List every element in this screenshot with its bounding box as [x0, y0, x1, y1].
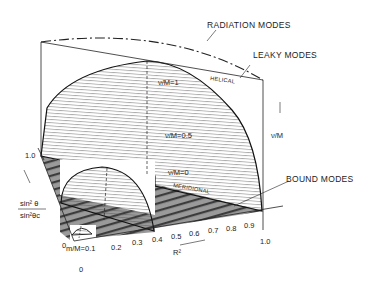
mode-diagram: RADIATION MODES LEAKY MODES HELICAL BOUN…: [0, 0, 368, 289]
origin-label: 0: [62, 241, 66, 250]
label-bound-modes: BOUND MODES: [286, 174, 354, 184]
axis-r2: R²: [173, 248, 181, 257]
bottom-zero: 0: [79, 265, 83, 274]
svg-text:0.7: 0.7: [208, 226, 218, 235]
label-leaky-modes: LEAKY MODES: [253, 50, 317, 60]
label-nu-m-1: ν/M=1: [158, 78, 179, 87]
label-radiation-modes: RADIATION MODES: [207, 20, 291, 30]
axis-nu-m: ν/M: [271, 131, 283, 140]
svg-text:0.2: 0.2: [111, 243, 121, 252]
svg-text:0.8: 0.8: [226, 224, 236, 233]
svg-text:0.5: 0.5: [171, 232, 181, 241]
svg-text:0.9: 0.9: [244, 221, 254, 230]
y-tick-1: 1.0: [25, 151, 35, 160]
y-label-numerator: sin² θ: [20, 199, 38, 208]
svg-text:0.6: 0.6: [189, 229, 199, 238]
svg-text:1.0: 1.0: [260, 237, 270, 246]
svg-text:0.3: 0.3: [132, 238, 142, 247]
label-m-m-01: m/M=0.1: [66, 244, 95, 253]
label-helical: HELICAL: [210, 75, 236, 84]
svg-text:0.4: 0.4: [152, 235, 162, 244]
y-label-denominator: sin²θc: [20, 211, 40, 220]
label-nu-m-0: ν/M=0: [168, 168, 189, 177]
label-nu-m-05: ν/M=0.5: [165, 131, 192, 140]
